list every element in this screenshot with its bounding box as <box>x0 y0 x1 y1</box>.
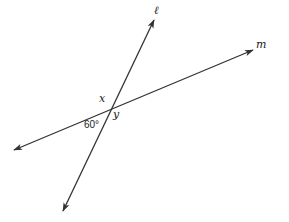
angle-y-label: y <box>112 108 120 121</box>
line-m <box>14 50 253 150</box>
line-l-label: ℓ <box>154 4 159 17</box>
angle-x-label: x <box>99 92 106 105</box>
intersecting-lines-diagram: ℓ m x y 60° <box>0 0 289 222</box>
angle-60-label: 60° <box>84 119 99 130</box>
line-m-label: m <box>256 38 266 51</box>
line-l <box>63 20 154 211</box>
